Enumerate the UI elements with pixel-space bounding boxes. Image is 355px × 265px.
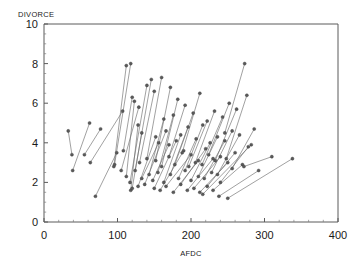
data-point [207, 153, 210, 156]
data-point [217, 195, 220, 198]
data-point [184, 104, 187, 107]
data-point [250, 143, 253, 146]
data-point [160, 76, 163, 79]
data-point [154, 135, 157, 138]
data-point [192, 187, 195, 190]
y-tick-label: 0 [32, 216, 38, 228]
data-point [197, 175, 200, 178]
data-point [115, 151, 118, 154]
data-point [228, 102, 231, 105]
data-point [131, 96, 134, 99]
data-segment [121, 107, 139, 170]
data-point [198, 92, 201, 95]
data-point [235, 108, 238, 111]
y-tick-label: 8 [32, 58, 38, 70]
data-point [169, 173, 172, 176]
data-segment [244, 157, 272, 167]
data-point [189, 179, 192, 182]
data-point [231, 167, 234, 170]
data-point [150, 78, 153, 81]
data-point [122, 149, 125, 152]
data-point [99, 127, 102, 130]
data-point [89, 161, 92, 164]
data-point [189, 153, 192, 156]
data-point [216, 135, 219, 138]
data-point [245, 94, 248, 97]
data-point [121, 110, 124, 113]
data-point [194, 161, 197, 164]
data-point [225, 157, 228, 160]
data-point [223, 139, 226, 142]
data-point [138, 161, 141, 164]
data-segment [232, 129, 254, 169]
data-point [173, 163, 176, 166]
y-axis-title: DIVORCE [18, 10, 54, 19]
data-point [167, 143, 170, 146]
data-point [192, 112, 195, 115]
data-point [216, 173, 219, 176]
data-point [70, 153, 73, 156]
data-point [212, 189, 215, 192]
data-point [247, 145, 250, 148]
data-point [125, 64, 128, 67]
data-point [153, 187, 156, 190]
data-point [133, 100, 136, 103]
data-segment [185, 125, 203, 171]
data-point [162, 181, 165, 184]
y-tick-label: 10 [26, 18, 38, 30]
data-point [179, 133, 182, 136]
data-point [164, 129, 167, 132]
y-axis-tick-labels: 0246810 [26, 18, 38, 228]
data-segment [84, 129, 100, 155]
data-point [226, 161, 229, 164]
data-point [134, 169, 137, 172]
data-point [184, 169, 187, 172]
data-point [201, 123, 204, 126]
data-point [187, 125, 190, 128]
scatter-plot-figure: 0246810 0100200300400 DIVORCE AFDC [0, 0, 355, 265]
data-point [226, 197, 229, 200]
data-point [214, 159, 217, 162]
data-point [143, 183, 146, 186]
data-point [157, 141, 160, 144]
data-point [197, 159, 200, 162]
data-segment [182, 93, 200, 152]
data-segment [228, 159, 293, 199]
data-point [238, 133, 241, 136]
data-segment [140, 91, 155, 162]
data-point [156, 171, 159, 174]
x-tick-label: 300 [255, 229, 273, 241]
data-point [200, 163, 203, 166]
data-point [242, 165, 245, 168]
data-point [181, 151, 184, 154]
data-point [167, 155, 170, 158]
data-segments-group [68, 64, 292, 199]
data-segment [187, 159, 213, 191]
data-point [176, 98, 179, 101]
data-point [128, 181, 131, 184]
data-point [153, 90, 156, 93]
data-point [162, 117, 165, 120]
data-point [195, 137, 198, 140]
data-point [148, 173, 151, 176]
y-tick-label: 2 [32, 176, 38, 188]
data-point [113, 163, 116, 166]
data-segment [217, 135, 239, 175]
x-tick-label: 200 [182, 229, 200, 241]
x-axis-title: AFDC [180, 249, 202, 258]
data-point [137, 106, 140, 109]
data-point [88, 121, 91, 124]
data-point [209, 141, 212, 144]
data-segment [123, 97, 132, 150]
data-point [177, 177, 180, 180]
data-point [203, 177, 206, 180]
data-point [198, 191, 201, 194]
data-point [169, 86, 172, 89]
x-axis-ticks [44, 218, 338, 222]
data-point [67, 129, 70, 132]
x-tick-label: 400 [329, 229, 347, 241]
x-tick-label: 100 [108, 229, 126, 241]
data-point [120, 169, 123, 172]
data-point [160, 165, 163, 168]
x-tick-label: 0 [41, 229, 47, 241]
